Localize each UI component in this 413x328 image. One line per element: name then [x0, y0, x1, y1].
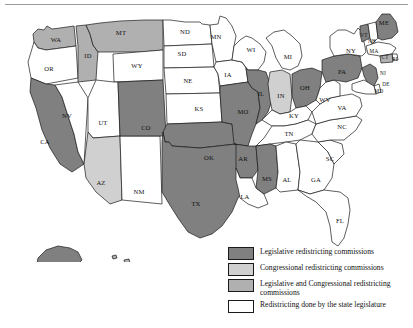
state-MI[interactable] — [266, 30, 302, 70]
state-ND[interactable] — [163, 20, 212, 46]
legend-row-legislative: Legislative redistricting commissions — [228, 246, 411, 260]
legend-row-both: Legislative and Congressional redistrict… — [228, 278, 411, 297]
state-IN[interactable] — [268, 70, 292, 114]
state-UT[interactable] — [88, 80, 120, 138]
state-NE[interactable] — [164, 67, 220, 94]
state-IA[interactable] — [214, 60, 248, 86]
legend-swatch-congressional — [228, 263, 254, 276]
state-MS[interactable] — [256, 144, 278, 194]
state-label-NJ: NJ — [380, 70, 386, 76]
state-MT[interactable] — [86, 20, 163, 52]
legend-label-legislature: Redistricting done by the state legislat… — [260, 299, 386, 309]
legend-swatch-both — [228, 279, 254, 292]
map-svg: WAORCANVIDMTWYUTAZNMCONDSDNEKSOKTXMNIAMO… — [0, 12, 413, 262]
state-AZ[interactable] — [84, 132, 122, 204]
state-CT[interactable] — [380, 54, 393, 63]
map-legend: Legislative redistricting commissions Co… — [228, 246, 411, 315]
state-AL[interactable] — [276, 142, 300, 192]
legend-swatch-legislative — [228, 247, 254, 260]
state-WY[interactable] — [113, 50, 163, 82]
state-FL[interactable] — [298, 190, 350, 246]
figure-root: WAORCANVIDMTWYUTAZNMCONDSDNEKSOKTXMNIAMO… — [0, 0, 413, 328]
state-ME[interactable] — [376, 14, 398, 40]
state-NM[interactable] — [120, 136, 162, 204]
state-MN[interactable] — [210, 16, 236, 62]
us-map: WAORCANVIDMTWYUTAZNMCONDSDNEKSOKTXMNIAMO… — [0, 12, 413, 262]
state-CO[interactable] — [118, 80, 166, 136]
legend-label-both: Legislative and Congressional redistrict… — [260, 278, 411, 297]
state-SD[interactable] — [164, 44, 214, 68]
legend-row-legislature: Redistricting done by the state legislat… — [228, 299, 411, 313]
legend-label-legislative: Legislative redistricting commissions — [260, 246, 374, 256]
legend-row-congressional: Congressional redistricting commissions — [228, 262, 411, 276]
states-layer — [28, 14, 398, 262]
state-OH[interactable] — [292, 68, 322, 108]
legend-label-congressional: Congressional redistricting commissions — [260, 262, 384, 272]
state-KS[interactable] — [166, 93, 222, 124]
state-OK[interactable] — [163, 122, 236, 148]
state-HI[interactable] — [112, 255, 164, 262]
state-PA[interactable] — [322, 54, 362, 82]
top-divider — [5, 4, 408, 5]
state-label-DE: DE — [382, 81, 389, 87]
legend-swatch-legislature — [228, 300, 254, 313]
state-AK[interactable] — [36, 246, 96, 262]
state-WA[interactable] — [33, 26, 76, 50]
state-TX[interactable] — [162, 132, 248, 238]
